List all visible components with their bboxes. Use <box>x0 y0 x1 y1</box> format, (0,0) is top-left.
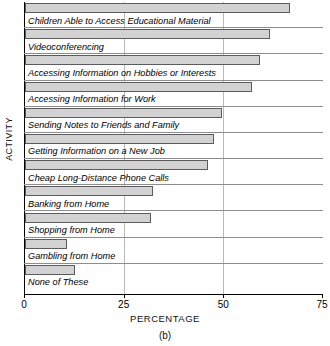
bar-2 <box>25 55 260 65</box>
x-axis-title: PERCENTAGE <box>0 313 330 324</box>
bar-0 <box>25 3 290 13</box>
x-tick-label: 75 <box>307 299 330 310</box>
bar-1 <box>25 29 270 39</box>
bar-label: Cheap Long-Distance Phone Calls <box>28 172 169 184</box>
bar-row: Cheap Long-Distance Phone Calls <box>24 159 323 185</box>
bar-row: Shopping from Home <box>24 212 323 238</box>
bar-4 <box>25 108 222 118</box>
x-tick-0 <box>24 294 25 298</box>
bar-label: Banking from Home <box>28 198 109 210</box>
bar-label: Children Able to Access Educational Mate… <box>28 15 211 27</box>
bar-row: Accessing Information for Work <box>24 81 323 107</box>
bar-row: Sending Notes to Friends and Family <box>24 107 323 133</box>
bar-row: None of These <box>24 264 323 290</box>
bar-5 <box>25 134 214 144</box>
bar-6 <box>25 160 208 170</box>
bar-3 <box>25 82 252 92</box>
bar-label: Sending Notes to Friends and Family <box>28 119 179 131</box>
bar-label: None of These <box>28 276 88 288</box>
y-axis-title: ACTIVITY <box>4 99 14 179</box>
bar-9 <box>25 239 67 249</box>
bar-row: Banking from Home <box>24 185 323 211</box>
bar-label: Accessing Information on Hobbies or Inte… <box>28 67 216 79</box>
x-tick-75 <box>322 294 323 298</box>
bar-row: Children Able to Access Educational Mate… <box>24 2 323 28</box>
bar-label: Accessing Information for Work <box>28 93 156 105</box>
plot-area: Children Able to Access Educational Mate… <box>24 2 323 294</box>
bar-7 <box>25 186 153 196</box>
x-tick-label: 25 <box>109 299 139 310</box>
bar-label: Shopping from Home <box>28 224 115 236</box>
bar-label: Videoconferencing <box>28 41 104 53</box>
bar-row: Getting Information on a New Job <box>24 133 323 159</box>
x-tick-25 <box>124 294 125 298</box>
x-tick-50 <box>223 294 224 298</box>
bar-10 <box>25 265 75 275</box>
bar-row: Gambling from Home <box>24 238 323 264</box>
x-axis-line <box>24 294 323 295</box>
bar-8 <box>25 213 151 223</box>
bar-label: Gambling from Home <box>28 250 115 262</box>
x-tick-label: 50 <box>208 299 238 310</box>
bar-label: Getting Information on a New Job <box>28 145 165 157</box>
bar-chart-figure: ACTIVITY Children Able to Access Educati… <box>0 0 330 346</box>
bar-row: Accessing Information on Hobbies or Inte… <box>24 54 323 80</box>
figure-caption: (b) <box>0 330 330 341</box>
x-tick-label: 0 <box>9 299 39 310</box>
bar-row: Videoconferencing <box>24 28 323 54</box>
